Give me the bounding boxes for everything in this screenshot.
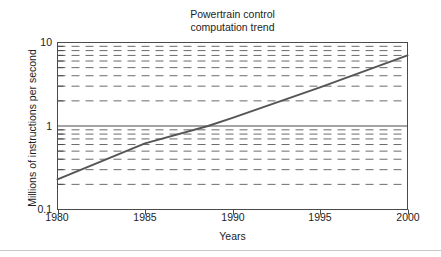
plot-area — [0, 0, 441, 257]
x-major-ticks-group — [59, 210, 409, 215]
footer-divider — [0, 250, 441, 251]
y-minor-ticks-group — [58, 46, 64, 184]
trend-line-series — [58, 55, 408, 179]
gridlines-group — [58, 46, 408, 184]
figure-canvas: Powertrain control computation trend Mil… — [0, 0, 441, 257]
